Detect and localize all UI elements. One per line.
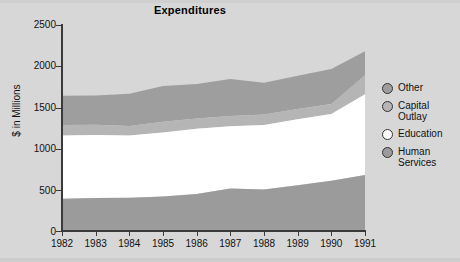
x-tick-1986 xyxy=(197,231,198,236)
x-tick-1982 xyxy=(62,231,63,236)
x-tick-label-1986: 1986 xyxy=(180,238,214,249)
legend-label-capital-outlay: Capital Outlay xyxy=(398,100,429,122)
x-tick-label-1983: 1983 xyxy=(79,238,113,249)
legend-item-other[interactable]: Other xyxy=(382,82,460,94)
y-tick-label-1500: 1500 xyxy=(22,103,56,113)
y-tick-label-0: 0 xyxy=(22,227,56,237)
x-tick-label-1988: 1988 xyxy=(247,238,281,249)
chart-title: Expenditures xyxy=(0,4,380,16)
x-tick-label-1990: 1990 xyxy=(314,238,348,249)
legend-swatch-capital-outlay-icon xyxy=(382,101,393,112)
x-tick-1990 xyxy=(331,231,332,236)
x-tick-1988 xyxy=(264,231,265,236)
x-tick-1984 xyxy=(129,231,130,236)
x-tick-label-1987: 1987 xyxy=(213,238,247,249)
y-axis-title: $ in Millions xyxy=(11,63,22,159)
x-tick-1989 xyxy=(298,231,299,236)
x-tick-1991 xyxy=(365,231,366,236)
legend-swatch-other-icon xyxy=(382,83,393,94)
legend-label-human-services: Human Services xyxy=(398,146,436,168)
x-tick-label-1984: 1984 xyxy=(112,238,146,249)
page-edge-top xyxy=(0,0,460,3)
legend-swatch-human-services-icon xyxy=(382,147,393,158)
x-tick-1983 xyxy=(96,231,97,236)
area-chart-svg xyxy=(62,25,365,231)
legend-swatch-education-icon xyxy=(382,129,393,140)
legend-item-education[interactable]: Education xyxy=(382,128,460,140)
y-tick-label-2000: 2000 xyxy=(22,61,56,71)
x-axis-line xyxy=(61,230,366,232)
legend-item-capital-outlay[interactable]: Capital Outlay xyxy=(382,100,460,122)
legend-label-other: Other xyxy=(398,82,423,93)
y-tick-label-1000: 1000 xyxy=(22,144,56,154)
legend-item-human-services[interactable]: Human Services xyxy=(382,146,460,168)
x-tick-1987 xyxy=(230,231,231,236)
x-tick-label-1989: 1989 xyxy=(281,238,315,249)
chart-legend: Other Capital Outlay Education Human Ser… xyxy=(382,82,460,174)
x-tick-1985 xyxy=(163,231,164,236)
legend-label-education: Education xyxy=(398,128,442,139)
y-tick-label-500: 500 xyxy=(22,186,56,196)
x-tick-label-1991: 1991 xyxy=(348,238,382,249)
plot-area xyxy=(62,25,365,231)
y-axis-line xyxy=(61,24,63,232)
x-tick-label-1982: 1982 xyxy=(45,238,79,249)
x-tick-label-1985: 1985 xyxy=(146,238,180,249)
chart-container: Expenditures $ in Millions 2500 2000 150… xyxy=(0,0,460,262)
page-edge-bottom xyxy=(0,258,460,262)
y-tick-label-2500: 2500 xyxy=(22,20,56,30)
